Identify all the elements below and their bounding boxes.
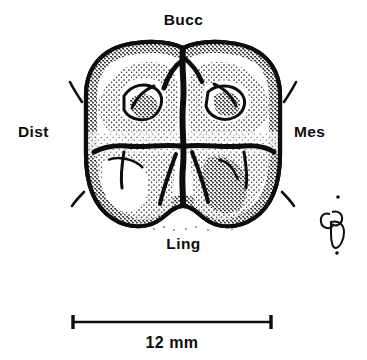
tooth-occlusal-drawing (58, 34, 308, 244)
direction-label-distal: Dist (18, 124, 49, 140)
scale-bar-label: 12 mm (66, 334, 278, 352)
direction-label-buccal: Bucc (0, 12, 367, 28)
tooth-figure: Bucc Dist Mes Ling (0, 0, 367, 360)
artist-signature-mark (316, 192, 356, 258)
scale-bar (66, 312, 278, 334)
